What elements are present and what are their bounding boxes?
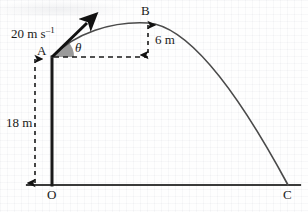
point-o-label: O — [47, 188, 56, 201]
launch-speed-value: 20 m s — [11, 26, 46, 41]
pole-height-label: 18 m — [6, 116, 32, 129]
launch-speed-label: 20 m s–1 — [11, 26, 55, 40]
launch-speed-exponent: –1 — [46, 25, 55, 35]
trajectory-curve — [52, 23, 288, 185]
apex-height-label: 6 m — [155, 33, 175, 46]
angle-theta-label: θ — [75, 41, 81, 54]
projectile-diagram-figure: 20 m s–1 θ A B C O 18 m 6 m — [0, 0, 308, 212]
point-b-label: B — [141, 4, 150, 17]
point-a-label: A — [37, 44, 46, 57]
point-c-label: C — [283, 188, 292, 201]
